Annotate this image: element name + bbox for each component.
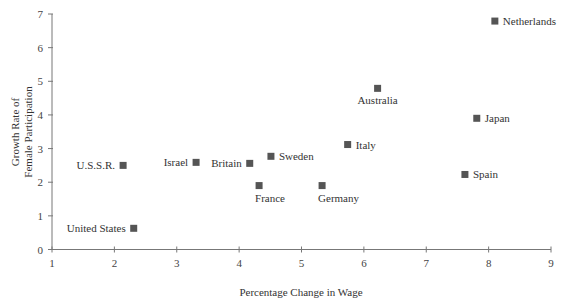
- point-label: Germany: [318, 192, 359, 204]
- square-marker-icon: [319, 182, 326, 189]
- y-axis-title-line2: Female Participation: [22, 86, 34, 178]
- y-tick-label: 6: [38, 42, 44, 54]
- square-marker-icon: [491, 18, 498, 25]
- x-tick-label: 2: [112, 257, 118, 269]
- point-label: Italy: [356, 139, 377, 151]
- y-tick-label: 5: [38, 75, 44, 87]
- data-point: Australia: [357, 85, 397, 107]
- point-label: Israel: [164, 156, 188, 168]
- x-tick-label: 8: [486, 257, 492, 269]
- y-tick-label: 4: [38, 109, 44, 121]
- data-point: France: [255, 182, 285, 204]
- data-point: Spain: [461, 168, 498, 180]
- point-label: Japan: [485, 112, 511, 124]
- x-tick-label: 4: [236, 257, 242, 269]
- point-label: Sweden: [279, 150, 314, 162]
- square-marker-icon: [130, 225, 137, 232]
- data-point: U.S.S.R.: [77, 159, 127, 171]
- square-marker-icon: [193, 159, 200, 166]
- point-label: Netherlands: [503, 15, 556, 27]
- square-marker-icon: [473, 115, 480, 122]
- y-tick-label: 3: [38, 143, 44, 155]
- square-marker-icon: [120, 162, 127, 169]
- x-tick-label: 3: [174, 257, 180, 269]
- y-tick-label: 7: [38, 8, 44, 20]
- x-tick-label: 9: [548, 257, 554, 269]
- data-point: Sweden: [267, 150, 314, 162]
- scatter-chart: 12345678901234567 United StatesU.S.S.R.I…: [0, 0, 564, 304]
- square-marker-icon: [267, 153, 274, 160]
- data-point: Netherlands: [491, 15, 556, 27]
- data-point: Germany: [318, 182, 359, 204]
- point-label: Australia: [357, 94, 397, 106]
- y-tick-label: 0: [38, 244, 44, 256]
- square-marker-icon: [256, 182, 263, 189]
- point-label: U.S.S.R.: [77, 159, 116, 171]
- y-axis-title: Growth Rate of Female Participation: [9, 86, 34, 178]
- data-point: United States: [67, 222, 137, 234]
- square-marker-icon: [344, 141, 351, 148]
- y-axis-title-line1: Growth Rate of: [9, 97, 21, 166]
- x-tick-label: 7: [424, 257, 430, 269]
- point-label: France: [255, 192, 285, 204]
- square-marker-icon: [246, 160, 253, 167]
- data-point: Israel: [164, 156, 200, 168]
- data-points: United StatesU.S.S.R.IsraelBritainSweden…: [67, 15, 556, 234]
- x-tick-label: 5: [299, 257, 305, 269]
- point-label: Spain: [473, 168, 499, 180]
- point-label: Britain: [211, 157, 242, 169]
- square-marker-icon: [374, 85, 381, 92]
- data-point: Britain: [211, 157, 253, 169]
- square-marker-icon: [461, 171, 468, 178]
- x-tick-label: 1: [49, 257, 55, 269]
- y-tick-label: 1: [38, 210, 44, 222]
- y-tick-label: 2: [38, 176, 44, 188]
- data-point: Italy: [344, 139, 376, 151]
- x-axis-title: Percentage Change in Wage: [239, 286, 362, 298]
- point-label: United States: [67, 222, 126, 234]
- data-point: Japan: [473, 112, 510, 124]
- x-tick-label: 6: [361, 257, 367, 269]
